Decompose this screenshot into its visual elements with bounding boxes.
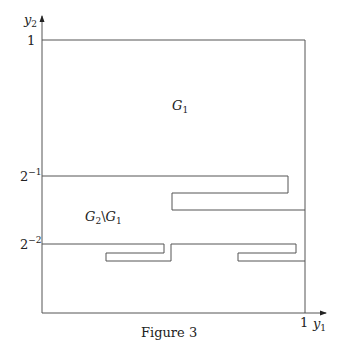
g1-boundary	[42, 176, 305, 210]
region-label-g2-minus-g1: G2\G1	[85, 209, 122, 226]
y-axis-label: y2	[23, 12, 37, 29]
g2-boundary	[42, 244, 305, 261]
y-tick-half: 2−1	[20, 167, 42, 184]
figure-caption: Figure 3	[141, 325, 197, 340]
figure-diagram: y2 y1 1 2−1 2−2 1 G1 G2\G1 Figure 3	[0, 0, 348, 348]
y-tick-1: 1	[27, 33, 35, 48]
y-tick-quarter: 2−2	[20, 235, 42, 252]
x-axis-label: y1	[312, 316, 326, 333]
region-label-g1: G1	[172, 98, 188, 115]
x-tick-1: 1	[300, 315, 308, 330]
